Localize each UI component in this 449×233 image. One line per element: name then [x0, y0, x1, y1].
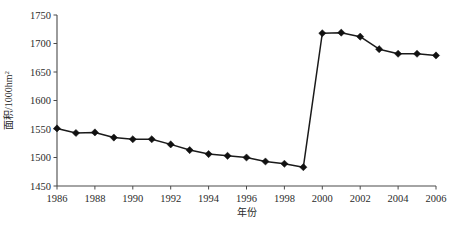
data-point-marker [338, 29, 345, 36]
data-point-marker [243, 154, 250, 161]
y-axis-tick-label: 1700 [30, 38, 51, 49]
data-point-marker [167, 141, 174, 148]
x-axis-tick-label: 1994 [198, 193, 220, 204]
data-point-marker [72, 129, 79, 136]
data-point-marker [129, 136, 136, 143]
y-axis-title: 面积/1000hm2 [3, 70, 14, 130]
data-point-marker [53, 125, 60, 132]
x-axis-tick-label: 2004 [388, 193, 410, 204]
x-axis-tick-label: 2002 [350, 193, 371, 204]
data-point-marker [281, 160, 288, 167]
data-point-marker [224, 152, 231, 159]
y-axis-tick-label: 1650 [30, 67, 51, 78]
data-point-marker [205, 150, 212, 157]
data-point-marker [91, 129, 98, 136]
x-axis-tick-label: 2006 [426, 193, 447, 204]
x-axis-tick-label: 1998 [274, 193, 295, 204]
y-axis-tick-label: 1550 [30, 124, 51, 135]
chart-canvas: 1450150015501600165017001750198619881990… [0, 0, 449, 233]
y-axis-tick-label: 1750 [30, 10, 51, 21]
data-point-marker [148, 136, 155, 143]
x-axis-tick-label: 1996 [236, 193, 257, 204]
x-axis-tick-label: 1990 [122, 193, 143, 204]
data-point-marker [110, 134, 117, 141]
data-point-marker [319, 30, 326, 37]
x-axis-tick-label: 1986 [47, 193, 68, 204]
data-point-marker [262, 158, 269, 165]
data-point-marker [395, 50, 402, 57]
data-point-marker [300, 164, 307, 171]
x-axis-tick-label: 1992 [160, 193, 181, 204]
y-axis-tick-label: 1450 [30, 181, 51, 192]
x-axis-tick-label: 1988 [84, 193, 105, 204]
x-axis-title: 年份 [237, 206, 257, 218]
svg-text:面积/1000hm2: 面积/1000hm2 [3, 70, 14, 130]
data-point-marker [186, 146, 193, 153]
x-axis-tick-label: 2000 [312, 193, 333, 204]
data-point-marker [432, 52, 439, 59]
line-chart: 1450150015501600165017001750198619881990… [0, 0, 449, 233]
y-axis-tick-label: 1600 [30, 95, 51, 106]
data-point-marker [413, 50, 420, 57]
y-axis-tick-label: 1500 [30, 152, 51, 163]
